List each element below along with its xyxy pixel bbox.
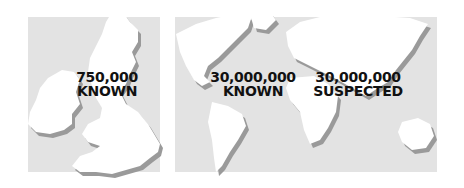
world-known-count: 30,000,000 (205, 70, 301, 84)
world-known-status: KNOWN (205, 84, 301, 98)
world-suspected-status: SUSPECTED (310, 84, 406, 98)
world-suspected-count: 30,000,000 (310, 70, 406, 84)
world-suspected-label: 30,000,000 SUSPECTED (310, 70, 406, 98)
world-known-label: 30,000,000 KNOWN (205, 70, 301, 98)
